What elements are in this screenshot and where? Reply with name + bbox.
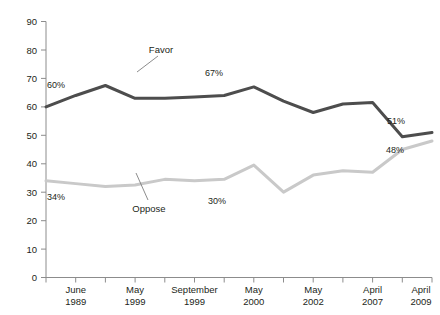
x-cat-year: 1999 xyxy=(184,296,205,307)
x-cat-month: May xyxy=(304,284,322,295)
chart-canvas: 90 80 70 60 50 40 30 20 10 0 xyxy=(0,0,440,315)
line-chart: 90 80 70 60 50 40 30 20 10 0 xyxy=(0,0,440,315)
x-cat-month: June xyxy=(65,284,86,295)
y-tick-label: 60 xyxy=(26,101,37,112)
x-cat-month: May xyxy=(126,284,144,295)
y-tick-label: 10 xyxy=(26,244,37,255)
y-tick-label: 50 xyxy=(26,130,37,141)
x-cat-month: April xyxy=(411,284,430,295)
x-axis-ticks xyxy=(46,278,432,283)
x-cat-month: May xyxy=(245,284,263,295)
series-annotation-oppose: Oppose xyxy=(132,203,165,214)
x-cat-year: 2007 xyxy=(362,296,383,307)
series-annotation-favor: Favor xyxy=(149,44,173,55)
point-label-favor-start: 60% xyxy=(47,80,65,90)
series-line-favor xyxy=(46,86,432,137)
y-tick-label: 90 xyxy=(26,16,37,27)
point-label-oppose-start: 34% xyxy=(47,192,65,202)
point-label-favor-peak: 67% xyxy=(205,68,223,78)
y-tick-label: 30 xyxy=(26,187,37,198)
oppose-leader-line xyxy=(136,173,148,200)
x-cat-year: 1999 xyxy=(125,296,146,307)
favor-leader-line xyxy=(137,56,158,72)
y-tick-label: 80 xyxy=(26,45,37,56)
x-cat-month: April xyxy=(363,284,382,295)
y-tick-label: 70 xyxy=(26,73,37,84)
series-line-oppose xyxy=(46,141,432,192)
x-axis-category-labels: June 1989 May 1999 September 1999 May 20… xyxy=(65,284,431,307)
x-cat-year: 2009 xyxy=(410,296,431,307)
y-tick-label: 0 xyxy=(32,272,37,283)
point-label-favor-end: 51% xyxy=(387,116,405,126)
point-label-oppose-end: 48% xyxy=(386,145,404,155)
point-label-oppose-trough: 30% xyxy=(208,196,226,206)
y-tick-label: 40 xyxy=(26,158,37,169)
y-axis-ticks: 90 80 70 60 50 40 30 20 10 0 xyxy=(26,16,46,283)
x-cat-year: 2000 xyxy=(243,296,264,307)
y-tick-label: 20 xyxy=(26,215,37,226)
x-cat-year: 1989 xyxy=(65,296,86,307)
x-cat-year: 2002 xyxy=(303,296,324,307)
x-cat-month: September xyxy=(171,284,217,295)
